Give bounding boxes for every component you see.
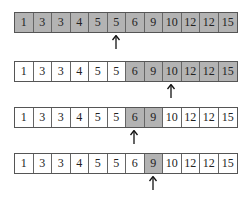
array-cell: 10 xyxy=(163,108,182,127)
pointer-arrow-icon xyxy=(148,176,158,190)
array-cell: 12 xyxy=(182,154,201,173)
array-cell: 6 xyxy=(126,154,145,173)
array-cell: 3 xyxy=(52,62,71,81)
array-cell: 15 xyxy=(219,62,238,81)
array-cell: 3 xyxy=(52,154,71,173)
array-cell: 5 xyxy=(89,62,108,81)
array-cell: 5 xyxy=(89,108,108,127)
pointer-arrow-icon xyxy=(166,84,176,98)
array-cell: 5 xyxy=(108,62,127,81)
array-cell: 3 xyxy=(52,13,71,32)
array-cell: 5 xyxy=(89,13,108,32)
array-cell: 12 xyxy=(182,62,201,81)
array-cell: 9 xyxy=(145,154,164,173)
array-cell: 1 xyxy=(15,108,34,127)
pointer-arrow-icon xyxy=(129,130,139,144)
array-cell: 1 xyxy=(15,154,34,173)
array-cell: 12 xyxy=(182,13,201,32)
array-cell: 12 xyxy=(200,62,219,81)
array-cell: 10 xyxy=(163,13,182,32)
array-cell: 4 xyxy=(71,108,90,127)
array-cell: 3 xyxy=(34,154,53,173)
array-cell: 6 xyxy=(126,13,145,32)
array-row-step-2: 1334556910121215 xyxy=(14,61,238,82)
array-cell: 5 xyxy=(108,154,127,173)
array-cell: 5 xyxy=(108,108,127,127)
array-cell: 15 xyxy=(219,154,238,173)
array-cell: 5 xyxy=(108,13,127,32)
array-cell: 3 xyxy=(52,108,71,127)
array-cell: 1 xyxy=(15,62,34,81)
array-cell: 1 xyxy=(15,13,34,32)
array-row-step-3: 1334556910121215 xyxy=(14,107,238,128)
array-cell: 9 xyxy=(145,13,164,32)
array-cell: 5 xyxy=(89,154,108,173)
array-cell: 6 xyxy=(126,108,145,127)
array-cell: 9 xyxy=(145,108,164,127)
array-cell: 12 xyxy=(200,13,219,32)
array-cell: 15 xyxy=(219,13,238,32)
array-cell: 12 xyxy=(182,108,201,127)
array-row-step-1: 1334556910121215 xyxy=(14,12,238,33)
array-cell: 4 xyxy=(71,13,90,32)
array-cell: 9 xyxy=(145,62,164,81)
array-cell: 12 xyxy=(200,154,219,173)
array-cell: 4 xyxy=(71,154,90,173)
array-cell: 3 xyxy=(34,62,53,81)
array-cell: 3 xyxy=(34,13,53,32)
array-cell: 6 xyxy=(126,62,145,81)
pointer-arrow-icon xyxy=(111,35,121,49)
array-cell: 4 xyxy=(71,62,90,81)
array-cell: 10 xyxy=(163,154,182,173)
array-cell: 12 xyxy=(200,108,219,127)
array-cell: 10 xyxy=(163,62,182,81)
array-cell: 3 xyxy=(34,108,53,127)
array-row-step-4: 1334556910121215 xyxy=(14,153,238,174)
array-cell: 15 xyxy=(219,108,238,127)
